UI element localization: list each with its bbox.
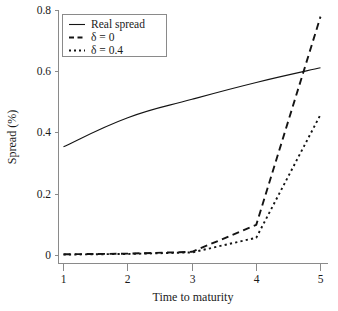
x-axis-title: Time to maturity (153, 290, 234, 304)
y-tick-label-3: 0.6 (37, 65, 52, 77)
legend-label-real-spread: Real spread (91, 18, 145, 31)
x-tick-label-2: 3 (190, 273, 196, 285)
x-axis-tick-labels: 1 2 3 4 5 (61, 273, 324, 285)
line-chart: 0 0.2 0.4 0.6 0.8 1 2 3 4 5 Time to matu… (0, 0, 338, 311)
chart-legend: Real spread δ = 0 δ = 0.4 (63, 15, 167, 57)
y-tick-label-1: 0.2 (37, 188, 52, 200)
y-axis-ticks (55, 11, 59, 256)
x-tick-label-1: 2 (125, 273, 131, 285)
legend-label-delta-04: δ = 0.4 (91, 44, 123, 56)
x-tick-label-4: 5 (318, 273, 324, 285)
y-axis-tick-labels: 0 0.2 0.4 0.6 0.8 (37, 4, 52, 261)
y-tick-label-2: 0.4 (37, 126, 52, 138)
series-line-delta-04 (64, 115, 321, 255)
y-tick-label-0: 0 (45, 249, 51, 261)
x-tick-label-0: 1 (61, 273, 67, 285)
series-line-real-spread (64, 68, 321, 147)
y-tick-label-4: 0.8 (37, 4, 52, 16)
y-axis-title: Spread (%) (5, 110, 19, 164)
legend-label-delta-0: δ = 0 (91, 31, 115, 43)
chart-figure: 0 0.2 0.4 0.6 0.8 1 2 3 4 5 Time to matu… (0, 0, 338, 311)
x-axis-ticks (64, 264, 321, 271)
x-tick-label-3: 4 (254, 273, 260, 285)
